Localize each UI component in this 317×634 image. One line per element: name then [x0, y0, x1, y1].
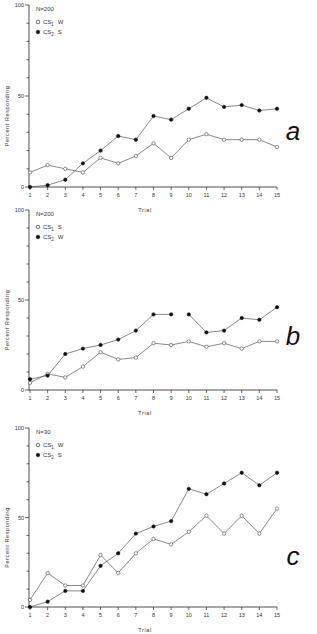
filled-circle-marker-icon [36, 235, 40, 239]
open-data-point [205, 514, 208, 517]
open-data-point [152, 142, 155, 145]
legend-item-2: CS2S [43, 452, 62, 460]
x-tick-label: 3 [64, 395, 67, 401]
open-data-point [275, 340, 278, 343]
open-data-point [28, 381, 31, 384]
open-data-point [117, 358, 120, 361]
open-data-point [64, 167, 67, 170]
filled-data-point [222, 329, 225, 332]
filled-data-point [81, 589, 84, 592]
filled-data-point [64, 352, 67, 355]
filled-data-point [152, 114, 155, 117]
y-tick-label: 0 [21, 387, 24, 393]
filled-data-point [117, 338, 120, 341]
filled-data-point [152, 313, 155, 316]
open-data-point [99, 156, 102, 159]
open-data-point [169, 543, 172, 546]
filled-data-point [134, 532, 137, 535]
filled-data-point [240, 103, 243, 106]
open-data-point [134, 552, 137, 555]
open-data-point [240, 514, 243, 517]
x-tick-label: 12 [221, 612, 227, 618]
filled-data-point [222, 105, 225, 108]
filled-data-point [205, 96, 208, 99]
x-tick-label: 14 [256, 612, 262, 618]
filled-data-point [187, 313, 190, 316]
x-tick-label: 12 [221, 395, 227, 401]
filled-data-point [64, 589, 67, 592]
chart-panel-c: 050100Percent Responding1234567891011121… [4, 425, 300, 633]
y-axis-title: Percent Responding [4, 507, 10, 568]
open-data-point [152, 537, 155, 540]
open-data-point [240, 347, 243, 350]
filled-data-point [134, 138, 137, 141]
filled-data-point [46, 183, 49, 186]
y-axis-title: Percent Responding [4, 86, 10, 147]
filled-data-point [205, 493, 208, 496]
x-tick-label: 10 [186, 612, 192, 618]
x-tick-label: 6 [117, 192, 120, 198]
filled-data-point [275, 471, 278, 474]
filled-data-point [64, 178, 67, 181]
open-data-point [117, 162, 120, 165]
filled-data-point [258, 109, 261, 112]
filled-data-point [99, 564, 102, 567]
open-data-point [81, 365, 84, 368]
filled-data-point [99, 343, 102, 346]
open-data-point [99, 351, 102, 354]
y-tick-label: 50 [18, 93, 24, 99]
x-tick-label: 9 [170, 192, 173, 198]
x-tick-label: 11 [204, 395, 210, 401]
y-tick-label: 100 [15, 2, 24, 8]
open-data-point [81, 584, 84, 587]
figure: 050100Percent Responding1234567891011121… [0, 0, 317, 634]
x-axis-title: Trial [138, 627, 152, 633]
x-tick-label: 14 [256, 395, 262, 401]
y-tick-label: 50 [18, 515, 24, 521]
x-tick-label: 7 [134, 395, 137, 401]
x-tick-label: 1 [28, 395, 31, 401]
x-tick-label: 6 [117, 612, 120, 618]
open-data-point [275, 507, 278, 510]
x-tick-label: 13 [239, 192, 245, 198]
y-tick-label: 50 [18, 297, 24, 303]
open-data-point [222, 532, 225, 535]
x-tick-label: 8 [152, 192, 155, 198]
filled-data-point [152, 525, 155, 528]
filled-data-point [222, 482, 225, 485]
legend-item-1: CS1W [43, 442, 64, 450]
x-tick-label: 4 [81, 395, 84, 401]
x-tick-label: 14 [256, 192, 262, 198]
open-data-point [258, 532, 261, 535]
open-data-point [275, 145, 278, 148]
y-axis-title: Percent Responding [4, 290, 10, 351]
x-tick-label: 5 [99, 395, 102, 401]
x-tick-label: 4 [81, 612, 84, 618]
open-data-point [46, 163, 49, 166]
open-data-point [117, 571, 120, 574]
x-tick-label: 3 [64, 612, 67, 618]
filled-data-point [169, 519, 172, 522]
filled-data-point [117, 134, 120, 137]
y-tick-label: 100 [15, 425, 24, 431]
filled-data-point [46, 600, 49, 603]
open-circle-marker-icon [36, 225, 40, 229]
x-tick-label: 7 [134, 192, 137, 198]
legend-item-1: CS1W [43, 19, 64, 27]
open-data-point [258, 138, 261, 141]
open-data-point [205, 133, 208, 136]
filled-data-point [275, 107, 278, 110]
open-data-point [187, 530, 190, 533]
filled-data-point [187, 107, 190, 110]
filled-data-point [187, 487, 190, 490]
x-tick-label: 2 [46, 612, 49, 618]
n-label: N=30 [36, 429, 51, 435]
x-tick-label: 15 [274, 192, 280, 198]
n-label: N=200 [36, 6, 55, 12]
filled-data-point [169, 118, 172, 121]
x-tick-label: 6 [117, 395, 120, 401]
open-data-point [240, 138, 243, 141]
panel-letter: b [286, 321, 300, 351]
open-circle-marker-icon [36, 443, 40, 447]
filled-data-point [258, 484, 261, 487]
